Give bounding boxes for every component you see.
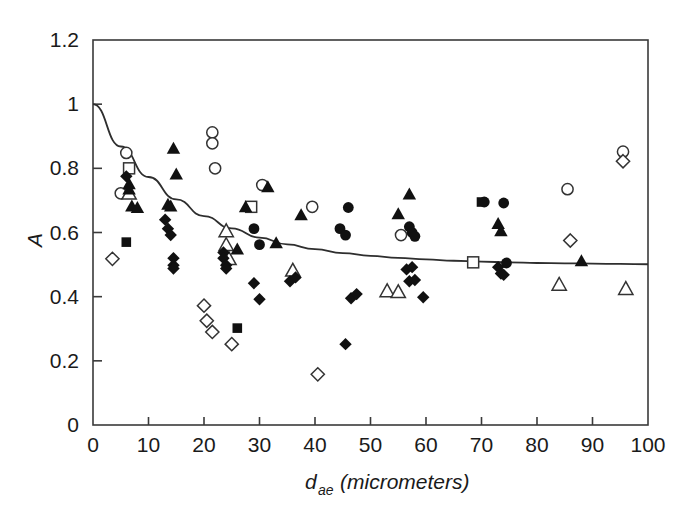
series-open-triangle (122, 186, 633, 297)
x-tick-label: 90 (581, 433, 604, 456)
data-point-filled-triangle (491, 217, 504, 229)
data-point-open-diamond (106, 252, 119, 265)
x-tick-label: 50 (359, 433, 382, 456)
data-point-filled-diamond (417, 291, 429, 303)
data-point-open-triangle (391, 285, 405, 298)
plot-frame (93, 40, 648, 425)
data-point-open-circle (562, 184, 573, 195)
series-filled-triangle (122, 142, 588, 266)
scatter-plot: 0102030405060708090100 00.20.40.60.811.2… (0, 0, 686, 516)
data-point-open-diamond (616, 155, 629, 168)
figure-container: 0102030405060708090100 00.20.40.60.811.2… (0, 0, 686, 516)
y-axis-ticks (93, 104, 102, 361)
y-axis-title: A (23, 233, 46, 249)
data-point-filled-circle (343, 202, 354, 213)
data-point-open-diamond (311, 368, 324, 381)
data-point-open-diamond (564, 234, 577, 247)
series-open-circle (115, 127, 628, 241)
data-point-open-triangle (552, 277, 566, 290)
data-point-open-diamond (197, 299, 210, 312)
data-point-filled-circle (410, 231, 421, 242)
data-point-filled-square (233, 323, 243, 333)
data-point-open-circle (207, 127, 218, 138)
x-tick-label: 100 (630, 433, 665, 456)
data-point-filled-triangle (575, 254, 588, 266)
x-tick-label: 0 (87, 433, 99, 456)
data-point-open-circle (210, 163, 221, 174)
data-point-open-circle (207, 138, 218, 149)
data-point-filled-diamond (339, 338, 351, 350)
data-point-open-diamond (225, 338, 238, 351)
data-point-filled-square (477, 197, 487, 207)
data-point-filled-circle (498, 198, 509, 209)
x-tick-label: 80 (525, 433, 548, 456)
y-tick-label: 1.2 (50, 28, 79, 51)
data-point-filled-triangle (167, 142, 180, 154)
series-open-diamond (106, 155, 630, 381)
data-point-filled-circle (249, 223, 260, 234)
data-point-open-circle (121, 147, 132, 158)
data-point-filled-diamond (159, 213, 171, 225)
y-tick-label: 0.2 (50, 349, 79, 372)
data-point-filled-triangle (392, 207, 405, 219)
y-axis-title-text: A (23, 233, 46, 249)
y-tick-label: 1 (67, 92, 79, 115)
data-point-filled-triangle (294, 208, 307, 220)
data-point-filled-circle (340, 230, 351, 241)
x-tick-label: 30 (248, 433, 271, 456)
data-point-filled-circle (254, 239, 265, 250)
x-tick-label: 70 (470, 433, 493, 456)
data-point-open-circle (307, 201, 318, 212)
y-tick-label: 0.8 (50, 156, 79, 179)
x-axis-tick-labels: 0102030405060708090100 (87, 433, 665, 456)
x-axis-title-subscript: ae (318, 482, 334, 498)
x-axis-title-symbol: d (305, 470, 318, 493)
x-tick-label: 20 (192, 433, 215, 456)
data-point-open-square (468, 257, 479, 268)
data-point-filled-square (122, 237, 132, 247)
data-point-filled-diamond (253, 293, 265, 305)
y-tick-label: 0.6 (50, 221, 79, 244)
y-tick-label: 0 (67, 413, 79, 436)
y-axis-tick-labels: 00.20.40.60.811.2 (50, 28, 80, 436)
data-point-filled-triangle (170, 168, 183, 180)
data-point-filled-diamond (248, 277, 260, 289)
x-tick-label: 60 (414, 433, 437, 456)
x-axis-ticks (149, 417, 593, 425)
y-tick-label: 0.4 (50, 285, 80, 308)
x-axis-title-unit: (micrometers) (340, 470, 470, 493)
data-point-open-circle (395, 229, 406, 240)
x-axis-title: d ae (micrometers) (305, 470, 470, 498)
x-tick-label: 10 (137, 433, 160, 456)
data-point-open-triangle (619, 282, 633, 295)
data-point-layer (106, 127, 633, 381)
x-tick-label: 40 (303, 433, 326, 456)
data-point-filled-triangle (269, 236, 282, 248)
data-point-filled-triangle (403, 187, 416, 199)
